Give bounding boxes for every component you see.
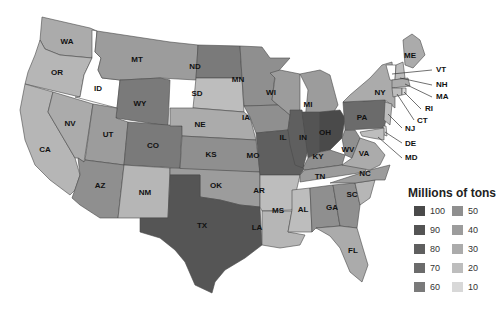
legend-item: 100 [414, 206, 452, 216]
state-label-wa: WA [61, 37, 74, 46]
legend-item: 50 [452, 206, 490, 216]
state-label-nd: ND [189, 62, 201, 71]
callout-line-ri [404, 92, 421, 109]
legend-swatch [414, 244, 425, 254]
callout-label-nj: NJ [405, 124, 415, 133]
legend-swatch [452, 263, 463, 273]
legend: Millions of tons 100 50 90 40 80 30 70 2… [408, 186, 498, 292]
state-label-mn: MN [232, 75, 245, 84]
callout-label-ma: MA [436, 92, 449, 101]
legend-swatch [414, 282, 425, 292]
state-label-ne: NE [194, 120, 206, 129]
callout-line-de [385, 132, 402, 143]
state-label-la: LA [252, 223, 263, 232]
state-label-pa: PA [357, 113, 368, 122]
legend-swatch [452, 244, 463, 254]
callout-line-ma [405, 84, 432, 97]
legend-value: 80 [430, 244, 440, 254]
callout-label-nh: NH [436, 80, 448, 89]
callout-label-md: MD [405, 153, 418, 162]
legend-value: 90 [430, 225, 440, 235]
state-label-il: IL [279, 133, 286, 142]
legend-swatch [452, 225, 463, 235]
state-label-in: IN [299, 133, 307, 142]
state-label-az: AZ [95, 181, 106, 190]
state-label-mt: MT [131, 55, 143, 64]
state-label-ny: NY [374, 88, 386, 97]
state-label-nv: NV [64, 119, 76, 128]
callout-label-ri: RI [425, 104, 433, 113]
legend-swatch [452, 282, 463, 292]
legend-value: 60 [430, 282, 440, 292]
legend-value: 20 [468, 263, 478, 273]
legend-value: 10 [468, 282, 478, 292]
state-mt [95, 31, 198, 80]
state-label-id: ID [94, 84, 102, 93]
legend-item: 80 [414, 244, 452, 254]
state-label-nc: NC [359, 169, 371, 178]
state-nh [395, 62, 405, 80]
callout-label-ct: CT [417, 116, 428, 125]
legend-title: Millions of tons [408, 186, 498, 200]
state-label-al: AL [298, 205, 309, 214]
legend-item: 90 [414, 225, 452, 235]
legend-value: 30 [468, 244, 478, 254]
state-label-ar: AR [253, 186, 265, 195]
state-label-nm: NM [139, 188, 152, 197]
legend-value: 50 [468, 206, 478, 216]
state-label-ca: CA [39, 145, 51, 154]
state-label-fl: FL [348, 246, 358, 255]
state-fl [316, 226, 368, 282]
state-label-ia: IA [242, 113, 250, 122]
legend-grid: 100 50 90 40 80 30 70 20 60 10 [408, 206, 498, 292]
state-label-tx: TX [197, 221, 208, 230]
state-ct [392, 88, 402, 97]
legend-value: 40 [468, 225, 478, 235]
state-label-ut: UT [103, 130, 114, 139]
legend-item: 70 [414, 263, 452, 273]
state-nd [196, 45, 242, 78]
legend-item: 40 [452, 225, 490, 235]
callout-line-ct [397, 94, 414, 120]
state-label-me: ME [404, 51, 417, 60]
state-label-ms: MS [272, 206, 285, 215]
state-label-ks: KS [205, 150, 217, 159]
state-label-wy: WY [134, 99, 148, 108]
legend-item: 30 [452, 244, 490, 254]
legend-item: 60 [414, 282, 452, 292]
callout-label-vt: VT [436, 65, 446, 74]
legend-swatch [414, 206, 425, 216]
state-label-va: VA [359, 149, 370, 158]
state-label-wi: WI [266, 88, 276, 97]
state-label-tn: TN [315, 172, 326, 181]
legend-item: 10 [452, 282, 490, 292]
state-label-sd: SD [191, 89, 202, 98]
state-label-mi: MI [304, 100, 313, 109]
state-md [360, 128, 384, 140]
state-ri [402, 88, 406, 95]
state-label-ok: OK [210, 181, 222, 190]
state-label-wv: WV [342, 145, 356, 154]
legend-value: 100 [430, 206, 445, 216]
state-label-sc: SC [346, 190, 357, 199]
legend-swatch [414, 263, 425, 273]
state-label-or: OR [51, 68, 63, 77]
state-label-oh: OH [319, 128, 331, 137]
state-label-co: CO [147, 141, 159, 150]
legend-item: 20 [452, 263, 490, 273]
state-label-ky: KY [312, 152, 324, 161]
legend-swatch [452, 206, 463, 216]
callout-label-de: DE [405, 139, 417, 148]
state-label-mo: MO [247, 151, 260, 160]
legend-swatch [414, 225, 425, 235]
legend-value: 70 [430, 263, 440, 273]
state-label-ga: GA [326, 203, 338, 212]
